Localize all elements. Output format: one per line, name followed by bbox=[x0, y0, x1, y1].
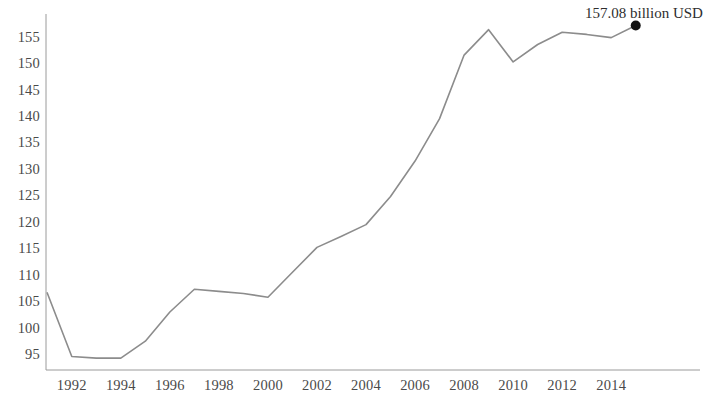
chart-plot-area bbox=[0, 0, 706, 401]
axis-lines bbox=[46, 14, 700, 370]
y-tick-label: 155 bbox=[6, 30, 40, 45]
x-tick-label: 2012 bbox=[537, 378, 587, 393]
x-tick-label: 2008 bbox=[439, 378, 489, 393]
x-tick-label: 1994 bbox=[96, 378, 146, 393]
x-tick-label: 1996 bbox=[145, 378, 195, 393]
series-group bbox=[47, 26, 635, 359]
y-tick-label: 120 bbox=[6, 215, 40, 230]
x-tick-label: 2002 bbox=[292, 378, 342, 393]
x-tick-label: 2010 bbox=[488, 378, 538, 393]
x-tick-label: 1992 bbox=[47, 378, 97, 393]
x-tick-label: 2004 bbox=[341, 378, 391, 393]
x-tick-label: 1998 bbox=[194, 378, 244, 393]
y-tick-label: 110 bbox=[6, 268, 40, 283]
line-chart: 95100105110115120125130135140145150155 1… bbox=[0, 0, 706, 401]
x-tick-label: 2014 bbox=[586, 378, 636, 393]
end-point-marker bbox=[631, 21, 641, 31]
y-tick-label: 105 bbox=[6, 294, 40, 309]
y-tick-label: 135 bbox=[6, 135, 40, 150]
y-tick-label: 95 bbox=[6, 347, 40, 362]
y-tick-label: 130 bbox=[6, 162, 40, 177]
y-tick-label: 125 bbox=[6, 188, 40, 203]
annotation-marker-group bbox=[631, 21, 641, 31]
y-tick-label: 115 bbox=[6, 241, 40, 256]
y-tick-label: 150 bbox=[6, 56, 40, 71]
y-tick-label: 145 bbox=[6, 83, 40, 98]
x-tick-label: 2006 bbox=[390, 378, 440, 393]
end-point-label: 157.08 billion USD bbox=[585, 6, 703, 21]
y-tick-label: 100 bbox=[6, 321, 40, 336]
series-line-billion-usd bbox=[47, 26, 635, 359]
y-tick-label: 140 bbox=[6, 109, 40, 124]
x-tick-label: 2000 bbox=[243, 378, 293, 393]
